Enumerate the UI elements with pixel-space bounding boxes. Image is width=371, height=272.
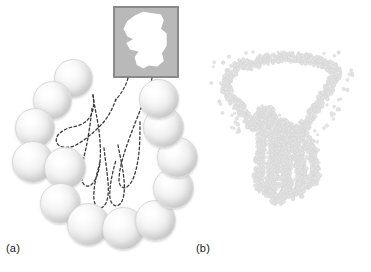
sampling-dot <box>300 195 303 198</box>
sphere-aperture <box>139 79 179 119</box>
sampling-dot <box>212 66 214 68</box>
sampling-dot <box>287 133 290 136</box>
sampling-dot <box>270 200 273 203</box>
sampling-dot <box>336 107 340 111</box>
sampling-dot <box>330 112 333 115</box>
sampling-dot <box>317 59 320 62</box>
sampling-dot <box>239 105 242 108</box>
sampling-dot <box>265 111 268 114</box>
sampling-dot <box>297 130 300 133</box>
sampling-dot <box>220 87 223 90</box>
sampling-dot <box>264 156 267 159</box>
sampling-dot <box>277 51 280 54</box>
sampling-dot <box>302 184 305 187</box>
sampling-dot <box>309 144 312 147</box>
sampling-dot <box>276 169 279 172</box>
dash-finger-2-outline <box>94 148 109 208</box>
sampling-dot <box>258 121 261 124</box>
sampling-dot <box>298 174 301 177</box>
sampling-dot <box>291 123 294 126</box>
sampling-dot <box>260 180 263 183</box>
sampling-dot <box>285 171 288 174</box>
sampling-dot <box>263 192 266 195</box>
dash-finger-3-outline <box>110 145 125 206</box>
sampling-dot <box>253 184 256 187</box>
sampling-dot <box>306 115 309 118</box>
sampling-dot <box>244 51 247 54</box>
sampling-dot <box>270 127 274 131</box>
sampling-dot <box>221 111 224 114</box>
sampling-dot <box>315 163 319 167</box>
sampling-dot <box>286 121 289 124</box>
sampling-dot <box>308 125 311 128</box>
panel-b: (b) <box>186 0 371 272</box>
sampling-dot <box>283 134 286 137</box>
sampling-dot <box>272 138 275 141</box>
sampling-dot <box>326 104 329 107</box>
sampling-dot <box>230 72 233 75</box>
sampling-dot <box>235 116 239 120</box>
sampling-dot <box>313 129 316 132</box>
sampling-dot <box>256 166 259 169</box>
sampling-dot <box>276 118 279 121</box>
sampling-dot <box>222 74 226 78</box>
sampling-dot <box>222 61 225 64</box>
panel-a-label: (a) <box>6 243 20 254</box>
sampling-dot <box>290 129 293 132</box>
sampling-dot <box>260 164 263 167</box>
sampling-dot <box>310 172 313 175</box>
dash-finger-4-outline <box>119 108 141 188</box>
sampling-dot <box>311 168 314 171</box>
sampling-dot <box>231 114 234 117</box>
sampling-dot <box>346 78 349 81</box>
sampling-dot <box>333 54 336 57</box>
sampling-dot <box>284 58 287 61</box>
sampling-dot <box>246 64 249 67</box>
sampling-dot <box>312 64 315 67</box>
sampling-dot <box>325 124 329 128</box>
sampling-dot <box>262 137 265 140</box>
sampling-dot <box>287 144 290 147</box>
sampling-dot <box>285 139 288 142</box>
sampling-dot <box>272 141 275 144</box>
sampling-dot <box>282 141 285 144</box>
sampling-dot <box>264 119 267 122</box>
sampling-dot <box>308 139 311 142</box>
sampling-dot <box>271 60 274 63</box>
sampling-dot <box>295 194 298 197</box>
sampling-dot <box>265 139 268 142</box>
sampling-dot <box>323 52 326 55</box>
sampling-dot <box>230 91 233 94</box>
sampling-dot <box>299 187 302 190</box>
panel-a: (a) <box>0 0 190 272</box>
sampling-dot <box>233 112 236 115</box>
sampling-dot <box>263 124 266 127</box>
sampling-dot <box>227 55 231 59</box>
sampling-dot <box>286 152 289 155</box>
sampling-dot <box>303 158 306 161</box>
sampling-dot <box>242 106 245 109</box>
sampling-dot <box>339 98 342 101</box>
sampling-dot <box>315 159 318 162</box>
sampling-dot <box>225 69 228 72</box>
sampling-dot <box>310 107 313 110</box>
sampling-dot <box>280 132 283 135</box>
sampling-dot <box>278 147 281 150</box>
sampling-dot <box>346 88 350 92</box>
sampling-dot <box>263 160 266 163</box>
sampling-dot <box>351 72 354 75</box>
sampling-dot <box>262 143 265 146</box>
sampling-dot <box>302 190 305 193</box>
sampling-dot <box>312 139 315 142</box>
sampling-dot <box>300 119 303 122</box>
sampling-dot <box>229 64 232 67</box>
sampling-dot <box>272 181 275 184</box>
sampling-dot <box>242 114 245 117</box>
sampling-dot <box>278 114 281 117</box>
sampling-dot <box>236 131 239 134</box>
sampling-dots-layer <box>186 0 371 272</box>
sampling-dot <box>318 178 321 181</box>
leader-line-left <box>116 78 128 100</box>
sampling-dot <box>258 135 262 139</box>
sampling-dot <box>233 127 236 130</box>
